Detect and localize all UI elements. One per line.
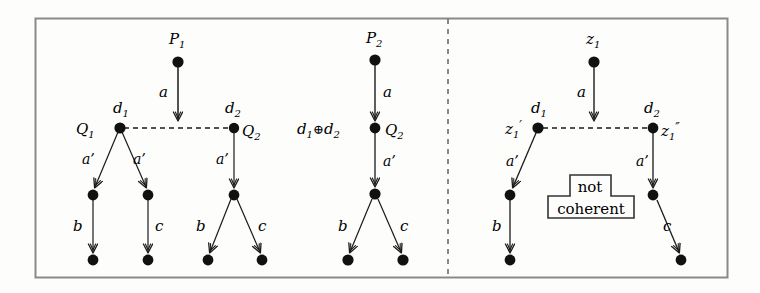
node-mid-leaf-b bbox=[342, 254, 353, 265]
label-q2-mid: Q2 bbox=[385, 121, 404, 141]
label-z1-prime: z1′ bbox=[504, 119, 522, 140]
label-d1-right: d1 bbox=[531, 99, 547, 119]
node-left-a1 bbox=[88, 190, 99, 201]
label-aprime-l2: a’ bbox=[133, 151, 146, 167]
node-z1-prime bbox=[532, 122, 543, 133]
node-left-a2 bbox=[143, 190, 154, 201]
not-coherent-line2: coherent bbox=[557, 200, 625, 218]
label-aprime-r2: a’ bbox=[636, 153, 649, 169]
label-p1: P1 bbox=[168, 30, 185, 50]
not-coherent-line1: not bbox=[578, 178, 603, 196]
label-c-l1: c bbox=[155, 217, 164, 235]
figure-border bbox=[36, 19, 728, 278]
label-z1-dprime: z1″ bbox=[660, 121, 680, 142]
edge-q1-left-aprime bbox=[95, 132, 118, 187]
label-aprime-m1: a’ bbox=[383, 153, 396, 169]
edge-q2left-b bbox=[210, 199, 231, 252]
label-c-l2: c bbox=[258, 217, 267, 235]
node-q2-left bbox=[229, 123, 239, 133]
edge-q2left-c bbox=[237, 199, 260, 252]
edge-mid-c bbox=[378, 199, 401, 252]
node-z1-dprime bbox=[648, 123, 659, 134]
node-p1 bbox=[172, 56, 183, 67]
node-right-right-child bbox=[648, 190, 659, 201]
label-edge-a-right: a bbox=[577, 83, 586, 101]
label-c-m: c bbox=[400, 217, 409, 235]
label-z1: z1 bbox=[585, 30, 600, 50]
node-left-leaf-b bbox=[88, 255, 99, 266]
label-b-l2: b bbox=[196, 217, 206, 235]
node-mid-leaf-c bbox=[397, 254, 408, 265]
label-d2-left: d2 bbox=[225, 99, 241, 119]
label-aprime-r1: a’ bbox=[506, 153, 519, 169]
node-z1 bbox=[588, 56, 599, 67]
node-right-leaf-c bbox=[676, 255, 687, 266]
label-aprime-l1: a’ bbox=[82, 151, 95, 167]
label-b-r: b bbox=[492, 217, 502, 235]
label-c-r: c bbox=[663, 217, 672, 235]
node-p2 bbox=[369, 54, 380, 65]
label-d1-xor-d2: d1⊕d2 bbox=[297, 120, 340, 140]
label-d2-right: d2 bbox=[644, 99, 660, 119]
node-q2-mid bbox=[370, 123, 381, 134]
node-q1 bbox=[114, 122, 125, 133]
label-edge-a-left: a bbox=[159, 83, 168, 101]
node-mid-child bbox=[369, 188, 380, 199]
label-aprime-l3: a’ bbox=[216, 151, 229, 167]
node-left-leaf-c bbox=[143, 255, 154, 266]
label-p2: P2 bbox=[365, 29, 382, 49]
edge-mid-b bbox=[350, 199, 372, 252]
transition-diagram: P1 a d1 Q1 d2 Q2 a’ a’ b c a’ b c P2 a d… bbox=[0, 0, 760, 293]
node-q2left-leaf-b bbox=[203, 255, 214, 266]
label-b-m: b bbox=[338, 217, 348, 235]
node-right-leaf-b bbox=[505, 255, 516, 266]
label-d1-left: d1 bbox=[113, 99, 129, 119]
figure-canvas: P1 a d1 Q1 d2 Q2 a’ a’ b c a’ b c P2 a d… bbox=[0, 0, 760, 293]
node-q2left-child bbox=[229, 190, 240, 201]
node-right-left-child bbox=[505, 190, 516, 201]
label-q2-left: Q2 bbox=[242, 122, 261, 142]
node-q2left-leaf-c bbox=[257, 255, 268, 266]
label-q1: Q1 bbox=[76, 120, 95, 140]
label-b-l1: b bbox=[73, 217, 83, 235]
label-edge-a-mid: a bbox=[383, 83, 392, 101]
